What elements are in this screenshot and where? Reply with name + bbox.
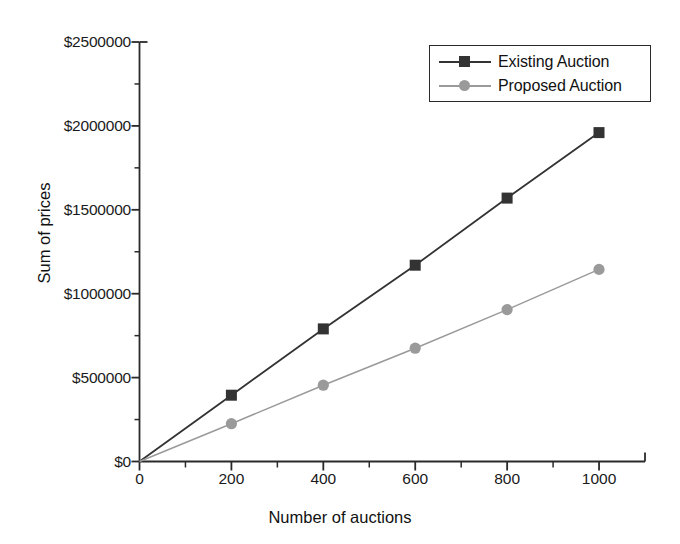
y-axis-title-wrapper: Sum of prices bbox=[24, 23, 64, 443]
circle-marker-icon bbox=[459, 80, 470, 91]
chart-screenshot: $0$500000$1000000$1500000$2000000$250000… bbox=[0, 0, 680, 544]
x-tick-label: 1000 bbox=[582, 470, 616, 488]
x-axis-tick-labels: 02004006008001000 bbox=[0, 470, 680, 496]
y-axis-tick-labels: $0$500000$1000000$1500000$2000000$250000… bbox=[0, 0, 131, 544]
x-tick-label: 800 bbox=[494, 470, 520, 488]
x-tick-label: 200 bbox=[218, 470, 244, 488]
y-tick-label: $2000000 bbox=[64, 117, 131, 135]
y-tick-label: $2500000 bbox=[64, 33, 131, 51]
y-tick-label: $0 bbox=[114, 453, 131, 471]
legend-swatch-proposed bbox=[439, 79, 491, 93]
series-layer bbox=[140, 127, 605, 461]
legend-item-proposed: Proposed Auction bbox=[430, 74, 650, 98]
y-axis-title: Sum of prices bbox=[35, 183, 54, 284]
legend: Existing Auction Proposed Auction bbox=[429, 45, 651, 102]
legend-swatch-existing bbox=[439, 55, 491, 69]
y-tick-label: $1000000 bbox=[64, 285, 131, 303]
square-marker-icon bbox=[459, 56, 470, 67]
x-tick-label: 400 bbox=[310, 470, 336, 488]
tick-marks bbox=[132, 42, 600, 471]
axis-lines bbox=[140, 42, 646, 462]
legend-item-existing: Existing Auction bbox=[430, 50, 650, 74]
y-tick-label: $1500000 bbox=[64, 201, 131, 219]
x-axis-title: Number of auctions bbox=[0, 508, 680, 527]
legend-label-proposed: Proposed Auction bbox=[498, 77, 622, 95]
x-tick-label: 0 bbox=[135, 470, 144, 488]
y-tick-label: $500000 bbox=[72, 369, 131, 387]
legend-label-existing: Existing Auction bbox=[498, 53, 609, 71]
x-tick-label: 600 bbox=[402, 470, 428, 488]
